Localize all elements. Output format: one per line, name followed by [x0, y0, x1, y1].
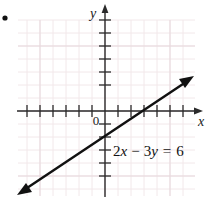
- equation-coef-x: 2: [113, 143, 121, 159]
- equation-var-y: y: [149, 143, 158, 159]
- y-axis-arrow-icon: [102, 4, 109, 13]
- equation-text: 2x−3y=6: [113, 143, 184, 159]
- graph-figure: y x 0 2x−3y=6: [0, 0, 211, 199]
- origin-label: 0: [93, 113, 100, 128]
- coordinate-plane-graph: y x 0 2x−3y=6: [0, 0, 211, 199]
- x-axis-label: x: [197, 114, 205, 129]
- equation-coef-y: 3: [144, 143, 152, 159]
- x-axis: [17, 108, 203, 115]
- bullet-marker-icon: [2, 15, 7, 20]
- y-axis-label: y: [88, 6, 97, 21]
- equation-var-x: x: [120, 143, 128, 159]
- equation-equals: =: [163, 143, 171, 159]
- equation-rhs: 6: [176, 143, 184, 159]
- equation-minus: −: [131, 143, 139, 159]
- equation-label: 2x−3y=6: [113, 143, 184, 159]
